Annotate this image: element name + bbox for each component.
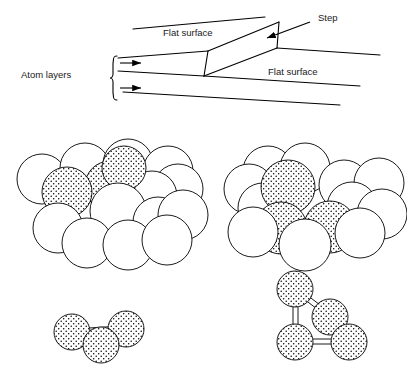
sphere-plain bbox=[335, 208, 385, 258]
terrace-line-lower-front bbox=[204, 76, 360, 86]
label-flat-surface-upper: Flat surface bbox=[163, 27, 213, 38]
terrace-line-bottom bbox=[123, 92, 340, 105]
top-stepped-surface-schematic bbox=[118, 17, 380, 105]
figure-root: Flat surface Flat surface Step Atom laye… bbox=[0, 0, 407, 375]
label-step: Step bbox=[318, 12, 338, 23]
atom-layer-arrows bbox=[120, 63, 141, 88]
terrace-line-lower-front-left bbox=[118, 71, 204, 76]
sphere-plain bbox=[279, 219, 331, 271]
cluster-top-right bbox=[224, 143, 407, 271]
sphere-plain bbox=[228, 207, 278, 257]
terrace-line-upper-front bbox=[118, 51, 208, 58]
step-face-top bbox=[208, 22, 279, 51]
atom-layers-bracket bbox=[110, 56, 117, 100]
step-face-right bbox=[277, 22, 279, 48]
cluster-top-left bbox=[17, 139, 208, 270]
sphere-dotted bbox=[277, 324, 313, 360]
label-flat-surface-lower: Flat surface bbox=[268, 66, 318, 77]
sphere-dotted bbox=[331, 324, 367, 360]
step-riser-left bbox=[204, 51, 208, 76]
cluster-bottom-right bbox=[277, 271, 367, 360]
label-atom-layers: Atom layers bbox=[21, 69, 71, 80]
terrace-line-lower-back bbox=[277, 48, 380, 55]
sphere-dotted bbox=[83, 327, 119, 363]
diagram-canvas: Flat surface Flat surface Step Atom laye… bbox=[0, 0, 407, 375]
cluster-bottom-left bbox=[54, 311, 144, 363]
sphere-dotted bbox=[277, 271, 313, 307]
sphere-plain bbox=[142, 215, 192, 265]
step-face-bottom bbox=[204, 48, 277, 76]
